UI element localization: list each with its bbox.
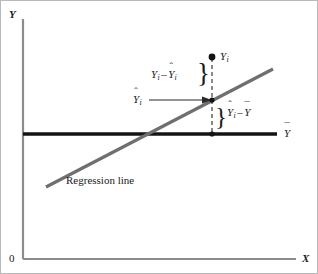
hat-accent-icon: ˆ (228, 100, 231, 110)
explained-brace-icon: } (215, 104, 227, 129)
explained-right-base: Y¯ (244, 107, 250, 118)
fitted-point-label: Yˆi (133, 94, 142, 107)
observed-point-label: Yi (220, 51, 229, 64)
observed-point-label-subscript: i (226, 55, 228, 64)
x-axis-label: X (302, 253, 309, 264)
y-axis-label: Y (9, 9, 16, 20)
residual-left-subscript: i (157, 73, 159, 82)
explained-annotation: Yˆi–Y¯ (227, 107, 250, 120)
explained-left-subscript: i (233, 111, 235, 120)
residual-brace-icon: } (197, 60, 210, 87)
plot-canvas (1, 1, 318, 274)
regression-line (46, 69, 273, 187)
overbar-accent-icon: ¯ (245, 101, 250, 111)
mean-line-label: Y¯ (284, 128, 290, 139)
residual-right-subscript: i (175, 73, 177, 82)
mean-line-label-base: Y¯ (284, 128, 290, 139)
fitted-point-label-base: Yˆ (133, 94, 139, 105)
explained-operator: – (237, 106, 243, 118)
residual-operator: – (161, 68, 167, 80)
regression-decomposition-figure: Y X 0 Y¯ Yi Yˆi Yi–Yˆi } Yˆi–Y¯ } Regres… (0, 0, 318, 274)
explained-left-base: Yˆ (227, 107, 233, 118)
regression-line-label: Regression line (66, 175, 134, 186)
hat-accent-icon: ˆ (169, 62, 172, 72)
fitted-point-label-subscript: i (139, 98, 141, 107)
fitted-point-marker (209, 97, 214, 102)
overbar-accent-icon: ¯ (284, 122, 289, 132)
residual-right-base: Yˆ (168, 69, 174, 80)
origin-label: 0 (9, 253, 15, 264)
hat-accent-icon: ˆ (134, 87, 137, 97)
residual-annotation: Yi–Yˆi (151, 69, 177, 82)
mean-point-marker (209, 131, 214, 136)
